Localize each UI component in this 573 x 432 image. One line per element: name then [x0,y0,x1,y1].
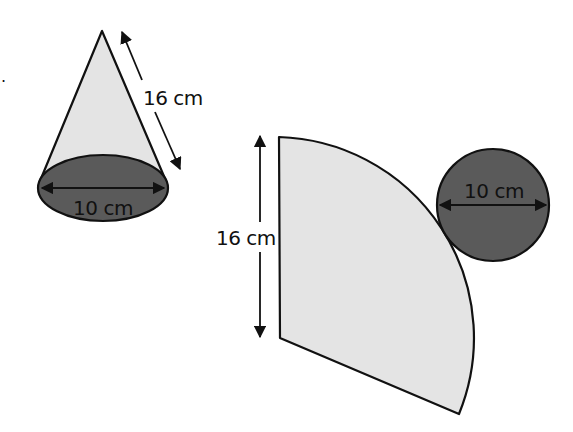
slant-height-label: 16 cm [143,86,203,110]
base-diameter-label: 10 cm [73,196,133,220]
cone-and-net-diagram: . 10 cm 16 cm 16 cm 10 cm [0,0,573,432]
slant-height-arrow-upper [122,32,142,80]
cone-net: 16 cm 10 cm [216,136,549,414]
slant-height-arrow-lower [155,112,180,169]
question-marker: . [1,67,6,86]
circle-diameter-label: 10 cm [464,179,524,203]
cone: 10 cm 16 cm [38,31,203,221]
sector-radius-label: 16 cm [216,226,276,250]
